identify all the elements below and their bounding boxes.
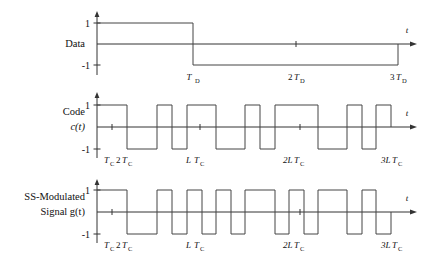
svg-text:L: L	[185, 155, 191, 165]
code-xtick-2TC-prefix: 2	[116, 155, 121, 165]
ss-modulated-waveform: 1 -1 SS-Modulated Signal g(t) t T C 2 T …	[24, 179, 417, 252]
code-xtick-label-LTC: L T C	[185, 155, 204, 167]
svg-text:2: 2	[116, 155, 121, 165]
svg-text:C: C	[200, 245, 204, 252]
ss-time-axis-label: t	[406, 193, 409, 203]
svg-text:3: 3	[390, 72, 395, 82]
ss-xtick-2TC-prefix: 2	[116, 240, 121, 250]
svg-text:2: 2	[288, 72, 293, 82]
ss-xtick-label-LTC: L T C	[185, 240, 204, 252]
code-xtick-3LTC-sub: C	[398, 160, 402, 167]
code-xtick-2TC-sub: C	[128, 160, 132, 167]
data-xtick-2TD-sub: D	[300, 77, 305, 84]
ss-xtick-2LTC-sub: C	[300, 245, 304, 252]
data-ylabel-top: 1	[85, 18, 90, 29]
svg-text:C: C	[200, 160, 204, 167]
code-xtick-2LTC-sub: C	[300, 160, 304, 167]
data-xtick-2TD-prefix: 2	[288, 72, 293, 82]
ss-xtick-TC-sub: C	[110, 245, 114, 252]
ss-ylabel-top: 1	[85, 185, 90, 196]
code-time-axis-label: t	[406, 108, 409, 118]
data-xtick-label-3TD: 3 T D	[390, 72, 407, 84]
data-xtick-3TD-prefix: 3	[390, 72, 395, 82]
svg-text:D: D	[300, 77, 305, 84]
ss-xtick-LTC-sub: C	[200, 245, 204, 252]
svg-text:2L: 2L	[283, 240, 293, 250]
svg-text:3L: 3L	[380, 155, 391, 165]
code-series-label-line2: c(t)	[70, 121, 85, 133]
svg-text:C: C	[128, 160, 132, 167]
svg-text:C: C	[110, 245, 114, 252]
svg-text:C: C	[300, 245, 304, 252]
svg-text:C: C	[128, 245, 132, 252]
ss-xtick-LTC-prefix: L	[185, 240, 191, 250]
code-xtick-label-2LTC: 2L T C	[283, 155, 304, 167]
svg-text:2L: 2L	[283, 155, 293, 165]
svg-text:C: C	[110, 160, 114, 167]
code-xtick-3LTC-prefix: 3L	[380, 155, 391, 165]
ss-xtick-label-2TC: 2 T C	[116, 240, 132, 252]
ss-xtick-label-2LTC: 2L T C	[283, 240, 304, 252]
ss-xtick-label-TC: T C	[104, 240, 114, 252]
data-xtick-TD-main: T	[186, 72, 192, 82]
data-y-arrow-icon	[95, 11, 100, 17]
code-xtick-TC-sub: C	[110, 160, 114, 167]
ss-series-label-line1: SS-Modulated	[24, 191, 85, 202]
ss-xtick-label-3LTC: 3L T C	[380, 240, 402, 252]
code-xtick-LTC-prefix: L	[185, 155, 191, 165]
code-y-arrow-icon	[95, 92, 100, 98]
code-xtick-LTC-sub: C	[200, 160, 204, 167]
ss-series-label-line2: Signal g(t)	[40, 206, 85, 218]
svg-text:L: L	[185, 240, 191, 250]
svg-text:C: C	[398, 160, 402, 167]
svg-text:D: D	[195, 77, 200, 84]
code-xtick-label-3LTC: 3L T C	[380, 155, 402, 167]
code-ylabel-bottom: -1	[82, 144, 90, 155]
ss-xtick-3LTC-prefix: 3L	[380, 240, 391, 250]
code-t-arrow-icon	[410, 124, 417, 129]
code-series-label-line1: Code	[63, 106, 86, 117]
data-xtick-TD-sub: D	[195, 77, 200, 84]
svg-text:T: T	[186, 72, 192, 82]
code-xtick-label-TC: T C	[104, 155, 114, 167]
code-xtick-label-2TC: 2 T C	[116, 155, 132, 167]
data-xtick-3TD-sub: D	[402, 77, 407, 84]
ss-xtick-2TC-sub: C	[128, 245, 132, 252]
data-t-arrow-icon	[410, 41, 417, 46]
ss-t-arrow-icon	[410, 209, 417, 214]
svg-text:C: C	[300, 160, 304, 167]
data-ylabel-bottom: -1	[82, 60, 90, 71]
svg-text:C: C	[398, 245, 402, 252]
figure-canvas: 1 -1 Data t T D 2 T D 3 T D	[0, 0, 431, 265]
ss-y-arrow-icon	[95, 179, 100, 185]
data-xtick-label-2TD: 2 T D	[288, 72, 305, 84]
data-waveform: 1 -1 Data t T D 2 T D 3 T D	[65, 11, 417, 84]
svg-text:3L: 3L	[380, 240, 391, 250]
ss-xtick-3LTC-sub: C	[398, 245, 402, 252]
code-ylabel-top: 1	[85, 100, 90, 111]
ss-ylabel-bottom: -1	[82, 229, 90, 240]
data-series-label: Data	[65, 38, 85, 49]
ss-xtick-2LTC-prefix: 2L	[283, 240, 293, 250]
svg-text:2: 2	[116, 240, 121, 250]
data-xtick-label-TD: T D	[186, 72, 200, 84]
code-xtick-2LTC-prefix: 2L	[283, 155, 293, 165]
waveform-figure: 1 -1 Data t T D 2 T D 3 T D	[0, 0, 431, 265]
data-time-axis-label: t	[406, 25, 409, 35]
svg-text:D: D	[402, 77, 407, 84]
code-waveform: 1 -1 Code c(t) t T C 2 T C L T C 2L T	[63, 92, 417, 167]
